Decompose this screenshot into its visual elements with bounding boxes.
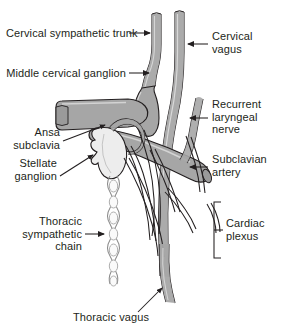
leader-stellate-ganglion xyxy=(60,155,93,176)
thoracic-sympathetic-chain xyxy=(108,176,120,286)
label-stellate-ganglion: Stellate ganglion xyxy=(0,157,57,182)
figure-canvas: Cervical sympathetic trunk Middle cervic… xyxy=(0,0,296,333)
label-thoracic-vagus: Thoracic vagus xyxy=(73,311,183,324)
label-cardiac-plexus: Cardiac plexus xyxy=(226,217,292,242)
thoracic-vagus-nerve xyxy=(160,244,175,303)
label-ansa-subclavia: Ansa subclavia xyxy=(0,126,60,151)
label-cervical-sympathetic-trunk: Cervical sympathetic trunk xyxy=(6,27,126,40)
label-recurrent-laryngeal-nerve: Recurrent laryngeal nerve xyxy=(212,98,294,136)
label-thoracic-sympathetic-chain: Thoracic sympathetic chain xyxy=(0,215,82,253)
leader-thoracic-vagus xyxy=(138,288,162,312)
label-subclavian-artery: Subclavian artery xyxy=(212,153,294,178)
label-middle-cervical-ganglion: Middle cervical ganglion xyxy=(6,67,126,80)
cervical-sympathetic-trunk-shape xyxy=(142,13,161,88)
label-cervical-vagus: Cervical vagus xyxy=(212,30,292,55)
cervical-vagus-nerve xyxy=(159,11,184,277)
